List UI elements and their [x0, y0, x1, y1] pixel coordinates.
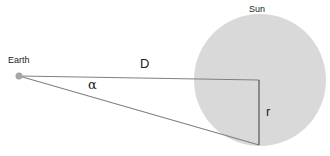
radius-label: r — [266, 104, 270, 119]
angle-label: α — [88, 77, 97, 92]
sun-circle — [194, 14, 326, 146]
sun-label: Sun — [249, 4, 265, 14]
distance-label: D — [140, 56, 149, 71]
sun-earth-angular-size-diagram: Earth Sun D α r — [0, 0, 330, 156]
earth-dot — [16, 73, 23, 80]
earth-label: Earth — [8, 55, 30, 65]
diagram-canvas — [0, 0, 330, 156]
